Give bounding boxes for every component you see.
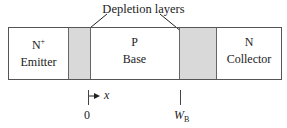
emitter-region: N+ Emitter bbox=[9, 28, 68, 79]
wb-main: W bbox=[174, 108, 184, 122]
wb-label: WB bbox=[174, 108, 189, 124]
collector-doping: N bbox=[216, 34, 282, 50]
collector-region: N Collector bbox=[216, 28, 282, 79]
wb-sub: B bbox=[184, 115, 189, 124]
x-axis-label: x bbox=[104, 88, 109, 103]
base-label: Base bbox=[90, 50, 179, 68]
base-region: P Base bbox=[90, 28, 179, 79]
base-collector-depletion-layer bbox=[179, 28, 217, 79]
x-direction-arrow-icon bbox=[89, 91, 103, 101]
transistor-structure: N+ Emitter P Base N Collector bbox=[8, 27, 282, 80]
collector-label: Collector bbox=[216, 50, 282, 68]
emitter-label: Emitter bbox=[9, 53, 68, 71]
base-doping: P bbox=[90, 34, 179, 50]
origin-label: 0 bbox=[84, 108, 90, 123]
wb-tick bbox=[180, 90, 181, 105]
emitter-base-depletion-layer bbox=[68, 28, 91, 79]
emitter-doping-sup: + bbox=[41, 37, 46, 46]
emitter-doping: N bbox=[32, 38, 41, 52]
